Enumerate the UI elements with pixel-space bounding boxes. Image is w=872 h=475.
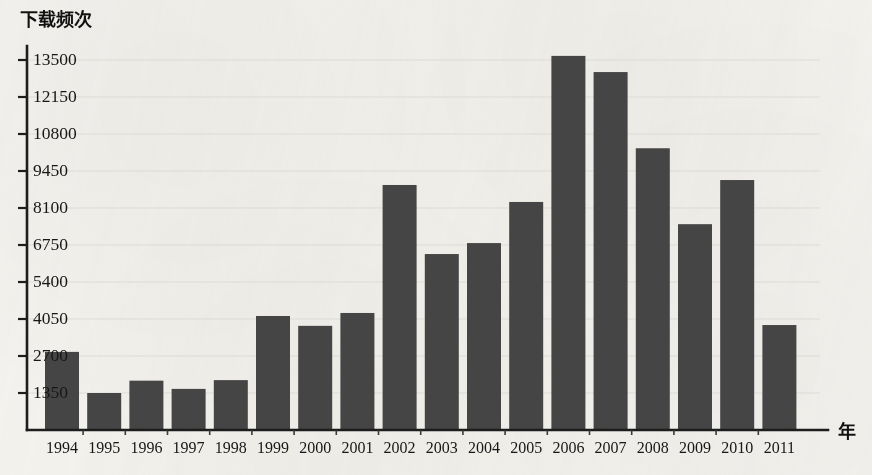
chart-figure: 1350270040505400675081009450108001215013…	[0, 0, 872, 475]
y-tick-label: 10800	[33, 123, 77, 143]
y-tick-label: 5400	[33, 271, 68, 291]
x-tick-label-2006: 2006	[552, 439, 584, 456]
bar-2009	[678, 224, 712, 430]
x-tick-label-2005: 2005	[510, 439, 542, 456]
y-tick-label: 2700	[33, 345, 68, 365]
x-tick-label-2003: 2003	[426, 439, 458, 456]
y-tick-label: 4050	[33, 308, 68, 328]
y-tick-label: 13500	[33, 49, 77, 69]
bar-2004	[467, 243, 501, 430]
bar-1997	[172, 389, 206, 430]
bar-2000	[298, 326, 332, 430]
x-tick-label-2011: 2011	[764, 439, 795, 456]
x-tick-label-2001: 2001	[341, 439, 373, 456]
x-tick-label-2007: 2007	[595, 439, 627, 456]
y-tick-label: 1350	[33, 382, 68, 402]
x-axis-title: 年	[838, 421, 856, 442]
x-tick-label-1995: 1995	[88, 439, 120, 456]
y-tick-label: 9450	[33, 160, 68, 180]
x-tick-label-2000: 2000	[299, 439, 331, 456]
y-tick-label: 6750	[33, 234, 68, 254]
y-tick-label: 12150	[33, 86, 77, 106]
y-axis-title: 下载频次	[20, 9, 92, 30]
bar-2005	[509, 202, 543, 430]
x-axis-group: 1994199519961997199819992000200120022003…	[27, 430, 828, 456]
bar-chart-canvas: 1350270040505400675081009450108001215013…	[0, 0, 872, 475]
bar-2008	[636, 148, 670, 430]
bar-2010	[720, 180, 754, 430]
x-tick-label-1996: 1996	[130, 439, 162, 456]
bar-1996	[129, 381, 163, 430]
x-tick-label-1999: 1999	[257, 439, 289, 456]
y-tick-label: 8100	[33, 197, 68, 217]
bar-2003	[425, 254, 459, 430]
bar-2002	[383, 185, 417, 430]
bar-1999	[256, 316, 290, 430]
bar-2006	[551, 56, 585, 430]
x-tick-label-2009: 2009	[679, 439, 711, 456]
x-tick-label-1998: 1998	[215, 439, 247, 456]
bar-1995	[87, 393, 121, 430]
bar-2011	[762, 325, 796, 430]
bar-2007	[594, 72, 628, 430]
bars-group	[45, 56, 796, 430]
bar-2001	[340, 313, 374, 430]
x-tick-label-2008: 2008	[637, 439, 669, 456]
bar-1998	[214, 380, 248, 430]
x-tick-label-1997: 1997	[173, 439, 205, 456]
x-tick-label-2002: 2002	[384, 439, 416, 456]
x-tick-label-1994: 1994	[46, 439, 78, 456]
x-tick-label-2010: 2010	[721, 439, 753, 456]
x-tick-label-2004: 2004	[468, 439, 500, 456]
